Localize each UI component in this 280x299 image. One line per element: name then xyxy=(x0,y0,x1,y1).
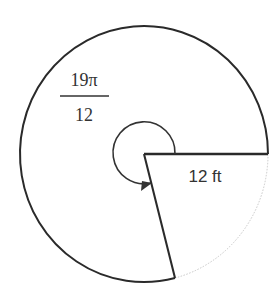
radius-line-lower xyxy=(144,154,175,278)
angle-numerator: 19π xyxy=(70,70,97,90)
angle-denominator: 12 xyxy=(75,105,93,125)
sector-diagram: 19π 12 12 ft xyxy=(0,0,280,299)
radius-label: 12 ft xyxy=(188,167,221,186)
